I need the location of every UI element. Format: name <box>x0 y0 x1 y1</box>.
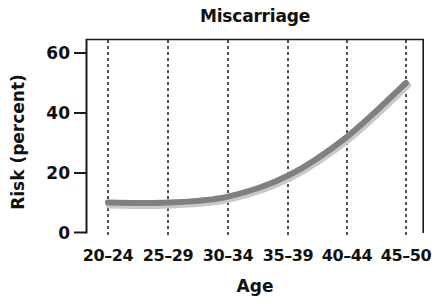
plot-area <box>0 0 440 304</box>
chart-container: Miscarriage Risk (percent) Age 60 40 20 … <box>0 0 440 304</box>
series-line-miscarriage-risk <box>108 83 406 203</box>
